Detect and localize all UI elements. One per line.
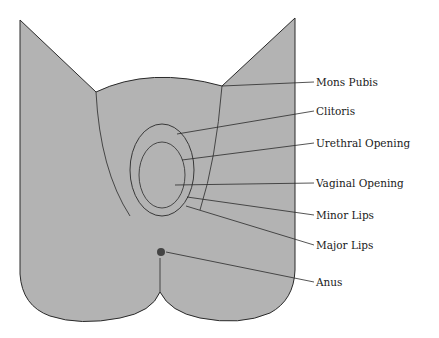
diagram-canvas [0, 0, 439, 338]
label-urethral-opening: Urethral Opening [316, 137, 410, 149]
label-anus: Anus [316, 276, 343, 288]
label-clitoris: Clitoris [316, 105, 355, 117]
label-major-lips: Major Lips [316, 239, 373, 251]
label-minor-lips: Minor Lips [316, 209, 374, 221]
label-vaginal-opening: Vaginal Opening [316, 177, 404, 189]
anus-mark [157, 248, 165, 256]
body-silhouette [20, 18, 295, 322]
label-mons-pubis: Mons Pubis [316, 76, 378, 88]
